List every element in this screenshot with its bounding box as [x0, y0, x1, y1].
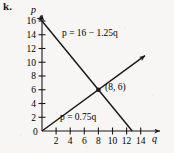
- y-tick-labels: 246810121416: [27, 16, 37, 122]
- y-tick-label: 8: [31, 71, 36, 81]
- y-tick-label: 14: [27, 30, 37, 40]
- y-tick-label: 4: [31, 99, 36, 109]
- y-axis-label: p: [30, 4, 36, 15]
- figure-container: k. 246810121416 2468: [0, 0, 174, 153]
- origin-tick-label: 0: [33, 127, 38, 137]
- y-tick-label: 6: [31, 85, 36, 95]
- supply-demand-plot: 246810121416 2468101214 p q 0 p = 16 − 1…: [0, 0, 174, 153]
- y-tick-label: 16: [27, 16, 37, 26]
- x-tick-label: 6: [82, 136, 87, 146]
- x-tick-label: 4: [68, 136, 73, 146]
- x-axis-label: q: [152, 133, 157, 144]
- demand-equation-label: p = 16 − 1.25q: [62, 28, 118, 38]
- equilibrium-point-label: (8, 6): [105, 82, 126, 93]
- x-tick-label: 10: [108, 136, 118, 146]
- annotation-markers: [96, 87, 101, 92]
- y-tick-label: 10: [27, 58, 37, 68]
- x-tick-label: 2: [54, 136, 59, 146]
- x-tick-label: 8: [96, 136, 101, 146]
- y-tick-label: 12: [27, 44, 37, 54]
- supply-equation-label: p = 0.75q: [60, 112, 96, 122]
- x-tick-labels: 2468101214: [54, 136, 146, 146]
- y-tick-label: 2: [31, 113, 36, 123]
- equilibrium-point-marker: [96, 87, 101, 92]
- x-tick-label: 12: [122, 136, 132, 146]
- x-tick-label: 14: [136, 136, 146, 146]
